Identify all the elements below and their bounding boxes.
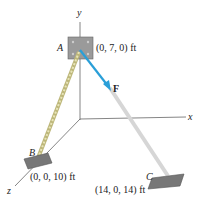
point-b-coords: (0, 0, 10) ft — [30, 172, 75, 182]
z-axis-label: z — [7, 186, 11, 196]
force-vector — [80, 50, 108, 86]
point-a-coords: (0, 7, 0) ft — [96, 43, 136, 53]
force-label: F — [113, 84, 119, 94]
y-axis-label: y — [77, 8, 81, 18]
cable-ac — [110, 88, 168, 176]
point-c-coords: (14, 0, 14) ft — [95, 185, 145, 195]
point-a-label: A — [57, 43, 63, 53]
plate-a — [68, 37, 93, 59]
point-c-label: C — [146, 172, 153, 182]
x-axis-label: x — [188, 112, 192, 122]
plate-c — [148, 174, 184, 189]
point-b-label: B — [29, 148, 35, 158]
x-axis — [80, 117, 186, 119]
